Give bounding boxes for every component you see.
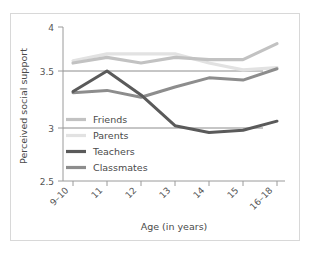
y-tick-label-3: 3 (48, 124, 54, 134)
figure-frame: 4 3.5 3 2.5 Perceived social support 9–1… (10, 13, 300, 241)
x-tick-label-1: 11 (89, 185, 104, 200)
x-tick-label-2: 12 (123, 185, 138, 200)
x-axis-title: Age (in years) (141, 221, 208, 232)
legend: Friends Parents Teachers Classmates (66, 114, 148, 173)
x-axis: 9–10 11 12 13 14 15 16–18 Age (in years) (48, 181, 285, 232)
legend-item-classmates[interactable]: Classmates (66, 162, 148, 173)
x-tick-label-3: 13 (157, 185, 172, 200)
y-tick-label-3-5: 3.5 (40, 67, 54, 77)
line-chart: 4 3.5 3 2.5 Perceived social support 9–1… (11, 14, 299, 240)
legend-item-teachers[interactable]: Teachers (66, 146, 135, 157)
x-tick-label-6: 16–18 (248, 185, 275, 212)
x-tick-label-5: 15 (225, 185, 240, 200)
x-tick-label-0: 9–10 (48, 185, 71, 208)
legend-item-friends[interactable]: Friends (66, 114, 127, 125)
y-tick-label-2-5: 2.5 (40, 177, 54, 187)
legend-label-friends: Friends (93, 114, 127, 125)
y-axis: 4 3.5 3 2.5 Perceived social support (18, 23, 63, 187)
y-tick-label-4: 4 (48, 23, 54, 33)
x-tick-label-4: 14 (191, 185, 206, 200)
legend-item-parents[interactable]: Parents (66, 130, 128, 141)
y-axis-title: Perceived social support (18, 48, 29, 164)
legend-label-classmates: Classmates (93, 162, 148, 173)
legend-label-teachers: Teachers (92, 146, 135, 157)
legend-label-parents: Parents (93, 130, 128, 141)
